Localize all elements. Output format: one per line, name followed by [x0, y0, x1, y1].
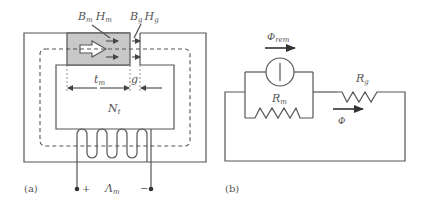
loop-wire — [225, 92, 405, 161]
magnet-reluctance-label: Rm — [271, 92, 287, 106]
magnet-reluctance-resistor — [245, 108, 313, 118]
turns-label: Nt — [107, 102, 121, 116]
plus-sign: + — [82, 183, 90, 194]
panel-b: Φrem Rm Rg Φ (b) — [225, 31, 405, 194]
magnetic-circuit-figure: BmHm BgHg tm g Nt + − Λm (a) Φrem Rm Rg … — [0, 0, 425, 208]
gap-length-label: g — [131, 73, 138, 86]
minus-sign: − — [140, 183, 148, 194]
core-window — [56, 65, 174, 129]
magnet-length-label: tm — [94, 73, 105, 87]
terminal-minus — [149, 187, 154, 192]
gap-BH-label: BgHg — [129, 10, 159, 24]
flux-label: Φ — [338, 116, 345, 126]
gap-reluctance-label: Rg — [355, 72, 369, 86]
terminal-plus — [75, 187, 80, 192]
gap-reluctance-resistor — [337, 92, 385, 102]
caption-b: (b) — [225, 183, 239, 194]
remanent-flux-label: Φrem — [267, 31, 290, 44]
panel-a: BmHm BgHg tm g Nt + − Λm (a) — [24, 10, 206, 196]
flux-linkage-label: Λm — [104, 182, 120, 196]
magnet-BH-label: BmHm — [77, 10, 112, 24]
caption-a: (a) — [24, 183, 38, 194]
